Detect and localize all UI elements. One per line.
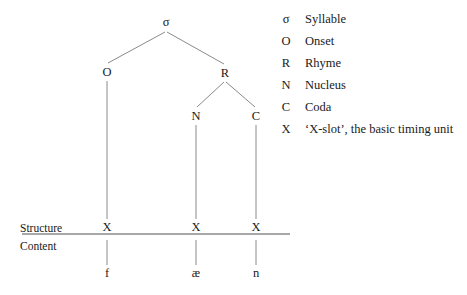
segment-label-ae: æ: [192, 267, 200, 280]
segment-label-n: n: [253, 267, 259, 280]
tree-node-xslot-1: X: [102, 221, 111, 234]
legend-symbol-x: X: [278, 120, 294, 138]
legend-symbol-o: O: [278, 32, 294, 50]
tree-node-xslot-3: X: [251, 221, 260, 234]
tree-node-nucleus: N: [191, 110, 200, 123]
syllable-structure-diagram: σ O R N C X X X f æ n Structure Content …: [0, 0, 467, 295]
legend: σ Syllable O Onset R Rhyme N Nucleus C C…: [278, 10, 464, 142]
legend-text-nucleus: Nucleus: [305, 76, 346, 94]
branch-sigma-to-onset: [108, 32, 165, 63]
legend-text-coda: Coda: [305, 98, 331, 116]
branch-sigma-to-rhyme: [167, 32, 224, 64]
legend-text-xslot: ‘X-slot’, the basic timing unit: [305, 120, 453, 138]
legend-text-syllable: Syllable: [305, 10, 346, 28]
legend-item-rhyme: R Rhyme: [278, 54, 464, 76]
branch-rhyme-to-nucleus: [197, 82, 224, 107]
legend-item-syllable: σ Syllable: [278, 10, 464, 32]
legend-item-xslot: X ‘X-slot’, the basic timing unit: [278, 120, 464, 142]
tier-label-structure: Structure: [20, 223, 62, 235]
legend-item-coda: C Coda: [278, 98, 464, 120]
legend-text-rhyme: Rhyme: [305, 54, 341, 72]
tree-node-xslot-2: X: [191, 221, 200, 234]
tree-node-sigma: σ: [163, 16, 170, 29]
legend-symbol-sigma: σ: [278, 10, 294, 28]
legend-item-nucleus: N Nucleus: [278, 76, 464, 98]
legend-symbol-n: N: [278, 76, 294, 94]
tree-node-coda: C: [252, 110, 260, 123]
legend-symbol-c: C: [278, 98, 294, 116]
branch-rhyme-to-coda: [226, 82, 255, 107]
tier-label-content: Content: [20, 241, 56, 253]
tree-node-rhyme: R: [221, 67, 229, 80]
legend-text-onset: Onset: [305, 32, 334, 50]
segment-label-f: f: [105, 267, 109, 280]
legend-symbol-r: R: [278, 54, 294, 72]
tree-node-onset: O: [102, 66, 111, 79]
legend-item-onset: O Onset: [278, 32, 464, 54]
tree-branches: [107, 32, 256, 265]
